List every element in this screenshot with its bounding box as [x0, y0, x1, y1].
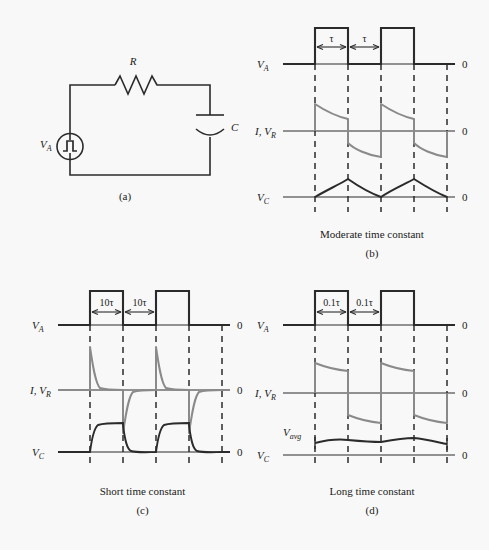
figure-rc-square-wave-response: R C VA (a) VA 0 τ: [0, 0, 489, 550]
panel-c-vc-wave: [58, 423, 230, 452]
panel-b-caption: Moderate time constant: [255, 228, 489, 240]
panel-d-caption: Long time constant: [255, 485, 489, 497]
panel-c-ivr-wave: [58, 347, 230, 433]
capacitor-plate-bottom-icon: [196, 129, 224, 135]
panel-b-va-zero: 0: [462, 58, 468, 70]
circuit-wire-loop: [70, 85, 210, 175]
svg-text:0.1τ: 0.1τ: [323, 297, 340, 308]
panel-d-ivr-label: I, VR: [255, 387, 276, 402]
resistor-symbol-icon: [115, 76, 159, 94]
panel-b-vc-zero: 0: [462, 191, 468, 203]
svg-text:10τ: 10τ: [99, 297, 113, 308]
panel-d-va-zero: 0: [462, 319, 468, 331]
panel-b-waveforms: VA 0 τ τ I, VR 0 VC 0: [255, 14, 489, 224]
panel-c-vc-label: VC: [32, 446, 45, 461]
panel-b-vc-label: VC: [257, 191, 270, 206]
panel-a-capacitor-label: C: [231, 121, 239, 133]
panel-a-source-label: VA: [40, 138, 52, 153]
panel-a-letter: (a): [0, 190, 250, 202]
panel-b-letter: (b): [255, 247, 489, 259]
panel-b-tau-pulse-dimension: τ: [317, 33, 346, 50]
panel-c-gap-dimension: 10τ: [125, 297, 154, 315]
panel-b-tau-gap-dimension: τ: [350, 33, 379, 50]
panel-b-va-label: VA: [257, 58, 269, 73]
svg-text:0.1τ: 0.1τ: [356, 297, 373, 308]
panel-a-circuit: R C VA: [40, 45, 240, 195]
svg-text:τ: τ: [329, 33, 333, 44]
panel-c-ivr-label: I, VR: [30, 384, 51, 399]
panel-d-vc-zero: 0: [462, 449, 468, 461]
svg-text:τ: τ: [362, 33, 366, 44]
panel-d-ivr-zero: 0: [462, 387, 468, 399]
panel-c-ivr-zero: 0: [237, 384, 243, 396]
panel-d-vavg-label: Vavg: [283, 426, 301, 441]
panel-c-va-label: VA: [32, 319, 44, 334]
svg-text:10τ: 10τ: [132, 297, 146, 308]
panel-c-letter: (c): [30, 504, 255, 516]
panel-d-letter: (d): [255, 504, 489, 516]
panel-c-caption: Short time constant: [30, 485, 255, 497]
panel-a-resistor-label: R: [129, 55, 137, 67]
panel-c-va-zero: 0: [237, 319, 243, 331]
panel-d-waveforms: VA 0 0.1τ 0.1τ I, VR 0 Vavg: [255, 285, 489, 480]
panel-c-vc-zero: 0: [237, 446, 243, 458]
panel-c-pulse-dimension: 10τ: [92, 297, 121, 315]
panel-b-ivr-label: I, VR: [255, 125, 276, 140]
panel-d-vc-label: VC: [257, 449, 270, 464]
panel-c-waveforms: VA 0 10τ 10τ I, VR 0 VC 0: [30, 285, 255, 480]
pulse-generator-icon: [63, 141, 77, 151]
panel-d-pulse-dimension: 0.1τ: [317, 297, 346, 315]
panel-d-va-label: VA: [257, 319, 269, 334]
panel-b-ivr-zero: 0: [462, 125, 468, 137]
panel-d-gap-dimension: 0.1τ: [350, 297, 379, 315]
panel-b-va-wave: [283, 28, 455, 64]
